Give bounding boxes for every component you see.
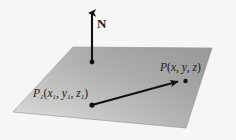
- label-point-P-x: x: [171, 61, 176, 73]
- label-point-P1-z-subscript: 1: [81, 93, 85, 101]
- label-point-P1: P1(x1, y1, z1): [33, 88, 88, 100]
- label-point-P1-x-subscript: 1: [53, 93, 57, 101]
- point-P1-marker: [89, 102, 94, 107]
- label-point-P: P(x, y, z): [160, 62, 201, 74]
- label-point-P1-subscript: 1: [40, 93, 44, 101]
- figure-plane-normal-vector: N P(x, y, z) P1(x1, y1, z1): [0, 0, 236, 140]
- point-P-marker: [183, 79, 187, 83]
- label-point-P-z: z: [193, 61, 197, 73]
- label-point-P1-prefix: P: [33, 87, 40, 99]
- label-point-P-y: y: [182, 61, 187, 73]
- label-point-P-prefix: P: [160, 61, 167, 73]
- label-point-P1-y-subscript: 1: [67, 93, 71, 101]
- normal-vector-base-point: [90, 60, 95, 65]
- label-normal-vector-N: N: [97, 17, 106, 30]
